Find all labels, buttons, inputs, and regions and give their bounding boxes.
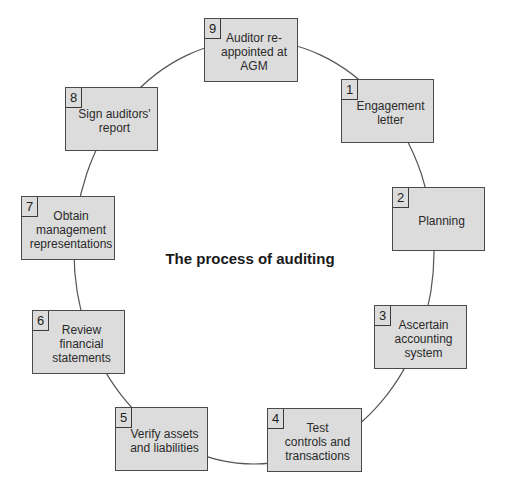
step-number: 3 [375, 306, 391, 326]
step-label: Verify assets and liabilities [120, 427, 203, 455]
step-number: 9 [205, 19, 221, 39]
step-number: 5 [116, 408, 132, 428]
diagram-title: The process of auditing [150, 250, 350, 267]
step-label: Review financial statements [42, 323, 115, 365]
step-4-box: 4 Test controls and transactions [267, 408, 362, 472]
step-label: Test controls and transactions [275, 421, 354, 463]
step-label: Auditor re- appointed at AGM [211, 31, 291, 73]
step-label: Ascertain accounting system [384, 318, 456, 360]
step-8-box: 8 Sign auditors' report [65, 87, 158, 151]
step-3-box: 3 Ascertain accounting system [374, 305, 467, 369]
step-number: 4 [268, 409, 284, 429]
step-number: 2 [393, 188, 409, 208]
step-7-box: 7 Obtain management representations [21, 196, 115, 260]
step-9-box: 9 Auditor re- appointed at AGM [204, 18, 298, 82]
step-label: Sign auditors' report [68, 107, 154, 135]
step-1-box: 1 Engagement letter [341, 79, 434, 143]
step-number: 1 [342, 80, 358, 100]
step-number: 7 [22, 197, 38, 217]
step-6-box: 6 Review financial statements [32, 310, 125, 374]
step-label: Planning [408, 214, 469, 228]
step-2-box: 2 Planning [392, 187, 485, 251]
step-5-box: 5 Verify assets and liabilities [115, 407, 208, 471]
step-number: 8 [66, 88, 82, 108]
step-number: 6 [33, 311, 49, 331]
step-label: Engagement letter [346, 99, 428, 127]
